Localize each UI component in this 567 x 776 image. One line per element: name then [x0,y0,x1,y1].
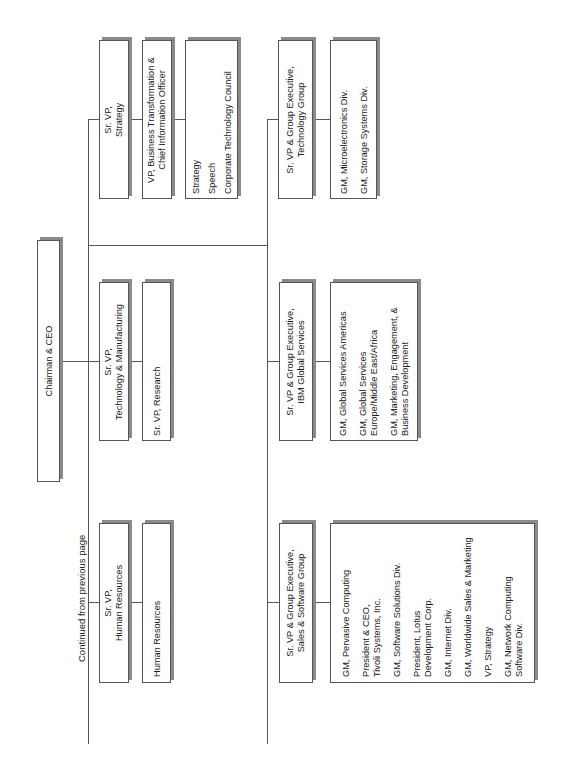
list-item: GM, Storage Systems Div. [358,46,369,194]
hr-label: Human Resources [151,529,162,677]
stub-strategy-r2 [171,119,185,120]
stub-ssg-r1 [313,602,330,603]
srvp-research-label: Sr. VP, Research [151,288,162,436]
stub-hr-r1 [128,602,142,603]
stub-igs [267,361,279,362]
branch-crossbar [88,245,267,246]
stub-techgroup [267,119,278,120]
srvp-research-box[interactable]: Sr. VP, Research [142,282,171,441]
techgroup-exec-label: Sr. VP & Group Executive, Technology Gro… [285,45,307,195]
list-item: GM, Global Services Europe/Middle East/A… [358,288,380,436]
list-item: GM, Pervasive Computing [341,529,352,677]
strategy-staff-list: Strategy Speech Corporate Technology Cou… [190,46,233,194]
ssg-exec-box[interactable]: Sr. VP & Group Executive, Sales & Softwa… [279,523,313,683]
igs-exec-label: Sr. VP & Group Executive, IBM Global Ser… [285,287,307,437]
igs-reports-list: GM, Global Services Americas GM, Global … [338,288,411,436]
techgroup-reports-list: GM, Microelectronics Div. GM, Storage Sy… [338,46,369,194]
ssg-reports-box[interactable]: GM, Pervasive Computing President & CEO,… [330,523,535,683]
stub-techgroup-r1 [313,119,330,120]
list-item: President, Lotus Development Corp. [412,529,434,677]
srvp-strategy-label: Sr. VP, Strategy [103,45,125,195]
list-item: VP, Strategy [483,529,494,677]
stub-strategy-r1 [129,119,142,120]
techgroup-exec-box[interactable]: Sr. VP & Group Executive, Technology Gro… [278,40,313,199]
list-item: President & CEO, Tivoli Systems, Inc. [361,529,383,677]
stub-tech [88,361,99,362]
hr-box[interactable]: Human Resources [142,523,171,683]
list-item: GM, Network Computing Software Div. [503,529,525,677]
stub-tech-r1 [128,361,142,362]
chairman-ceo-box[interactable]: Chairman & CEO [37,240,60,482]
stub-strategy [88,119,99,120]
right-branch-trunk [267,119,268,744]
chairman-ceo-label: Chairman & CEO [43,246,54,476]
vp-bt-cio-label: VP, Business Transformation & Chief Info… [146,45,168,195]
list-item: GM, Worldwide Sales & Marketing [463,529,474,677]
list-item: GM, Software Solutions Div. [392,529,403,677]
srvp-tech-mfg-box[interactable]: Sr. VP, Technology & Manufacturing [99,282,129,441]
stub-ssg [267,602,279,603]
list-item: Speech [206,46,217,194]
strategy-staff-box[interactable]: Strategy Speech Corporate Technology Cou… [185,40,238,199]
list-item: GM, Microelectronics Div. [338,46,349,194]
techgroup-reports-box[interactable]: GM, Microelectronics Div. GM, Storage Sy… [330,40,377,199]
srvp-hr-label: Sr. VP, Human Resources [103,528,125,678]
ssg-exec-label: Sr. VP & Group Executive, Sales & Softwa… [285,528,307,678]
srvp-tech-mfg-label: Sr. VP, Technology & Manufacturing [103,287,125,437]
stub-igs-r1 [312,361,330,362]
continued-caption: Continued from previous page [76,535,87,662]
list-item: Corporate Technology Council [222,46,233,194]
ssg-reports-list: GM, Pervasive Computing President & CEO,… [341,529,525,677]
ceo-connector [59,361,88,362]
igs-reports-box[interactable]: GM, Global Services Americas GM, Global … [330,282,418,441]
list-item: GM, Internet Div. [443,529,454,677]
stub-hr [88,602,99,603]
list-item: Strategy [190,46,201,194]
igs-exec-box[interactable]: Sr. VP & Group Executive, IBM Global Ser… [279,282,313,441]
srvp-hr-box[interactable]: Sr. VP, Human Resources [99,523,129,683]
vp-bt-cio-box[interactable]: VP, Business Transformation & Chief Info… [142,40,172,199]
list-item: GM, Marketing, Engagement, & Business De… [389,288,411,436]
left-branch-trunk [88,119,89,744]
srvp-strategy-box[interactable]: Sr. VP, Strategy [99,40,129,199]
list-item: GM, Global Services Americas [338,288,349,436]
